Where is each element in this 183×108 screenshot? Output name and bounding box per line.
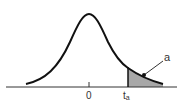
critical-value-subscript: a bbox=[126, 94, 130, 101]
zero-label: 0 bbox=[86, 90, 92, 101]
area-pointer-arrow bbox=[144, 61, 163, 75]
t-distribution-diagram: 0 ta a bbox=[0, 0, 183, 108]
area-label: a bbox=[164, 51, 171, 63]
arrow-head-dot bbox=[142, 73, 146, 77]
bell-curve bbox=[26, 14, 163, 84]
critical-value-label: ta bbox=[123, 90, 130, 101]
